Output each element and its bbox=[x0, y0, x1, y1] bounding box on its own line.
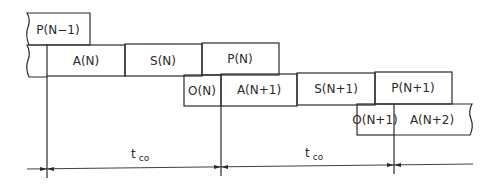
label-p-n-minus-1: P(N−1) bbox=[36, 23, 79, 37]
label-s-n: S(N) bbox=[150, 54, 176, 68]
label-a-n: A(N) bbox=[73, 54, 100, 68]
label-s-n-plus-1: S(N+1) bbox=[314, 82, 358, 96]
dimension-line bbox=[27, 164, 473, 169]
label-a-n-plus-1: A(N+1) bbox=[237, 83, 281, 97]
label-p-n-plus-1: P(N+1) bbox=[391, 81, 434, 95]
interval-label-1: tco bbox=[131, 147, 150, 163]
interval-label-2: tco bbox=[305, 146, 324, 162]
label-a-n-plus-2: A(N+2) bbox=[410, 113, 454, 127]
label-p-n: P(N) bbox=[227, 52, 253, 66]
pipeline-timing-diagram: P(N−1) A(N) S(N) P(N) O(N) A(N+1) S(N+1)… bbox=[0, 0, 495, 191]
label-o-n-plus-1: O(N+1) bbox=[352, 113, 397, 127]
label-o-n: O(N) bbox=[188, 84, 216, 98]
